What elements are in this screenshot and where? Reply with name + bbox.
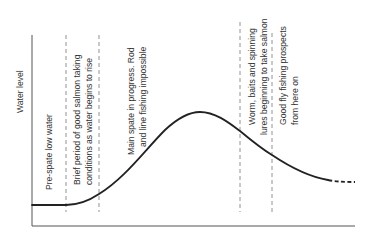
phase-label-worm-baits-line1: Worm, baits and spinning xyxy=(247,28,257,125)
phase-label-good-fly-line1: Good fly fishing prospects xyxy=(278,26,288,125)
phase-label-brief-period-line2: conditions as water begins to rise xyxy=(84,58,94,185)
phase-label-main-spate-line1: Main spate in progress. Rod xyxy=(126,47,136,155)
phase-label-main-spate-line2: and line fishing impossible xyxy=(138,46,148,147)
phase-label-pre-spate-line1: Pre-spate low water xyxy=(44,114,54,190)
water-level-diagram: Water level Pre-spate low water Brief pe… xyxy=(0,0,382,236)
water-level-curve-projected xyxy=(328,180,355,182)
phase-label-pre-spate: Pre-spate low water xyxy=(44,114,54,190)
phase-label-worm-baits-line2: lures beginning to take salmon xyxy=(259,18,269,135)
y-axis-label: Water level xyxy=(15,70,25,113)
phase-label-worm-baits: Worm, baits and spinning lures beginning… xyxy=(247,18,269,135)
phase-label-main-spate: Main spate in progress. Rod and line fis… xyxy=(126,46,148,155)
phase-label-good-fly: Good fly fishing prospects from here on xyxy=(278,26,300,125)
phase-label-brief-period: Brief period of good salmon taking condi… xyxy=(72,54,94,185)
phase-label-brief-period-line1: Brief period of good salmon taking xyxy=(72,54,82,185)
phase-label-good-fly-line2: from here on xyxy=(290,76,300,125)
